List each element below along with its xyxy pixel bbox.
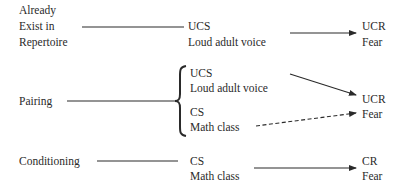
stage-label: Pairing <box>19 95 52 108</box>
stimulus-code: UCS <box>190 67 212 80</box>
curly-brace-icon <box>175 66 186 136</box>
stimulus-desc: Loud adult voice <box>188 36 266 49</box>
stimulus-code: UCS <box>188 20 210 33</box>
response-desc: Fear <box>362 36 382 49</box>
response-code: UCR <box>362 20 386 33</box>
response-desc: Fear <box>362 108 382 121</box>
response-code: CR <box>362 155 377 168</box>
stage-label: Conditioning <box>19 155 80 168</box>
arrow-cs-to-ucr-dashed-row2 <box>256 113 356 126</box>
stimulus-code: CS <box>190 106 204 119</box>
stimulus-desc: Math class <box>190 121 240 134</box>
stimulus-desc: Math class <box>190 170 240 183</box>
arrow-ucs-to-ucr-row2 <box>290 74 356 95</box>
stimulus-desc: Loud adult voice <box>190 82 268 95</box>
stage-label-line: Exist in <box>19 20 54 33</box>
stage-label-line: Repertoire <box>19 36 68 49</box>
response-code: UCR <box>362 93 386 106</box>
response-desc: Fear <box>362 170 382 183</box>
stimulus-code: CS <box>190 155 204 168</box>
stage-label-line: Already <box>19 4 56 17</box>
